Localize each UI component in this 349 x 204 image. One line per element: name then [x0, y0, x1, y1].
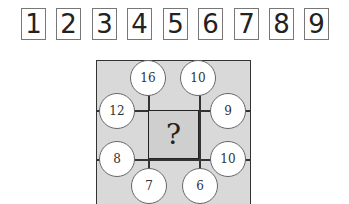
circle-left-lower: 8	[99, 141, 135, 177]
option-9[interactable]: 9	[304, 8, 329, 40]
circle-top-right: 10	[180, 60, 216, 96]
unknown-cell: ?	[148, 110, 199, 159]
option-1[interactable]: 1	[21, 8, 46, 40]
option-3[interactable]: 3	[92, 8, 117, 40]
circle-right-upper: 9	[210, 93, 246, 129]
option-5[interactable]: 5	[163, 8, 188, 40]
circle-top-left: 16	[130, 60, 166, 96]
option-6[interactable]: 6	[198, 8, 223, 40]
circle-bottom-right: 6	[182, 168, 218, 204]
option-8[interactable]: 8	[269, 8, 294, 40]
circle-bottom-left: 7	[131, 168, 167, 204]
option-2[interactable]: 2	[56, 8, 81, 40]
circle-left-upper: 12	[99, 93, 135, 129]
option-4[interactable]: 4	[127, 8, 152, 40]
option-7[interactable]: 7	[234, 8, 259, 40]
circle-right-lower: 10	[210, 141, 246, 177]
